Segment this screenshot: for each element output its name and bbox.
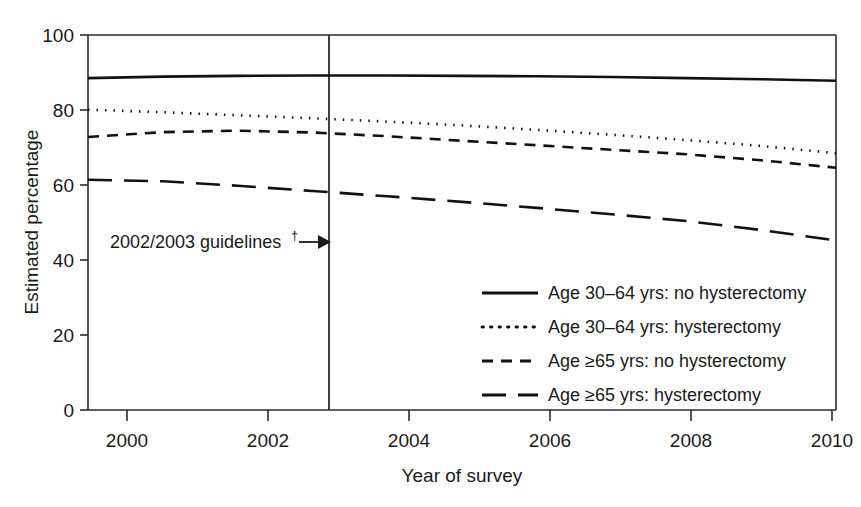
- legend-entry: Age 30–64 yrs: hysterectomy: [482, 317, 781, 337]
- x-tick-marks: [127, 410, 832, 421]
- y-tick-label: 0: [63, 400, 74, 421]
- y-tick-label: 60: [53, 175, 74, 196]
- legend-label: Age ≥65 yrs: no hysterectomy: [548, 351, 786, 371]
- x-tick-label: 2002: [247, 430, 289, 451]
- line-chart: 0 20 40 60 80 100 2000 2002 2004 2006 20…: [0, 0, 861, 507]
- x-tick-labels: 2000 2002 2004 2006 2008 2010: [106, 430, 853, 451]
- legend-entry: Age ≥65 yrs: no hysterectomy: [482, 351, 786, 371]
- legend-label: Age 30–64 yrs: hysterectomy: [548, 317, 781, 337]
- y-tick-label: 40: [53, 250, 74, 271]
- legend-entry: Age ≥65 yrs: hysterectomy: [482, 385, 761, 405]
- guideline-annotation-label: 2002/2003 guidelines: [110, 232, 281, 252]
- legend-label: Age 30–64 yrs: no hysterectomy: [548, 283, 806, 303]
- x-tick-label: 2000: [106, 430, 148, 451]
- x-tick-label: 2006: [529, 430, 571, 451]
- x-tick-label: 2010: [811, 430, 853, 451]
- y-tick-labels: 0 20 40 60 80 100: [42, 25, 74, 421]
- figure-root: 0 20 40 60 80 100 2000 2002 2004 2006 20…: [0, 0, 861, 507]
- guideline-annotation: 2002/2003 guidelines †: [110, 228, 331, 252]
- x-tick-label: 2004: [388, 430, 431, 451]
- y-tick-label: 20: [53, 325, 74, 346]
- series-line-3: [88, 131, 836, 168]
- x-tick-label: 2008: [670, 430, 712, 451]
- series-layer: [88, 76, 836, 241]
- y-tick-label: 80: [53, 100, 74, 121]
- series-line-2: [88, 110, 836, 154]
- series-line-1: [88, 76, 836, 81]
- legend-entry: Age 30–64 yrs: no hysterectomy: [482, 283, 806, 303]
- y-tick-marks: [80, 35, 88, 410]
- legend-label: Age ≥65 yrs: hysterectomy: [548, 385, 761, 405]
- chart-legend: Age 30–64 yrs: no hysterectomyAge 30–64 …: [482, 283, 806, 405]
- y-tick-label: 100: [42, 25, 74, 46]
- x-axis-title: Year of survey: [402, 465, 523, 486]
- dagger-symbol: †: [291, 228, 298, 243]
- y-axis-title: Estimated percentage: [21, 130, 42, 315]
